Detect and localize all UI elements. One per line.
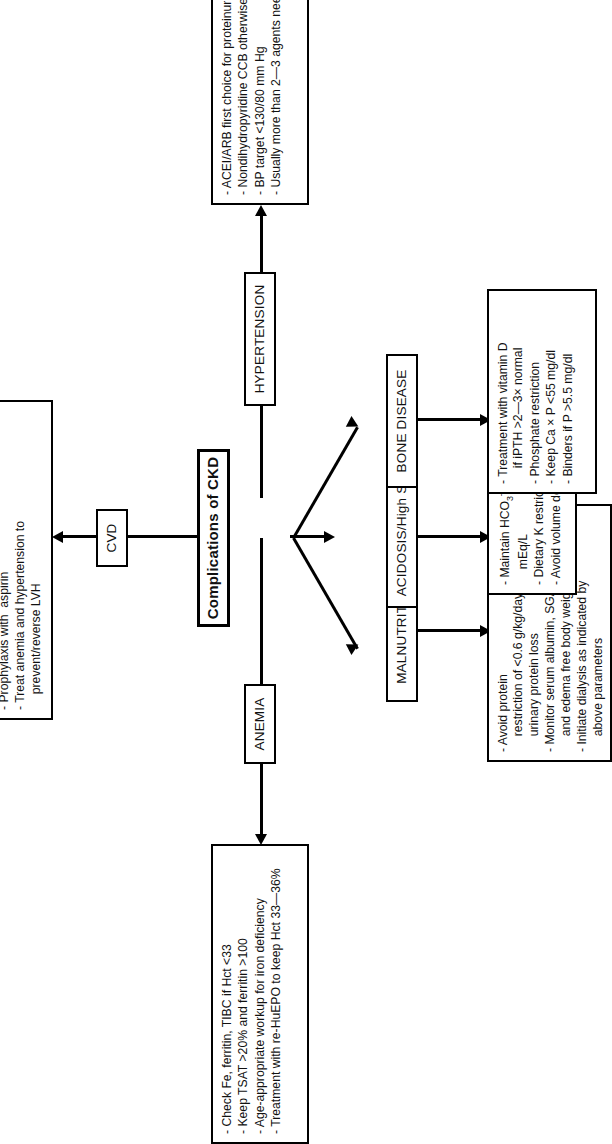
connector-central-to-bone-disease [292, 426, 359, 538]
connector-central-to-malnutrition [292, 537, 359, 649]
node-label-cvd: CVD [105, 523, 120, 552]
connector-hypertension-to-detail [260, 214, 263, 272]
list-item: - Treatment with re-HuEPO to keep Hct 33… [269, 854, 284, 1134]
connector-malnutrition-to-detail [418, 629, 482, 632]
list-item: - Age-appropriate workup for iron defici… [253, 854, 268, 1134]
node-cvd[interactable]: CVD [96, 509, 128, 567]
list-item: - Treatment with vitamin D if iPTH >2—3×… [496, 299, 527, 484]
list-item: - BP target <130/80 mm Hg [253, 0, 268, 195]
connector-anemia-to-detail [260, 764, 263, 839]
node-anemia[interactable]: ANEMIA [244, 684, 276, 764]
acidosis-line2: mEq/L [516, 534, 530, 576]
arrowhead-bone-disease [346, 416, 361, 432]
arrowhead-cvd-detail [52, 531, 63, 543]
detail-list-hypertension: - ACEI/ARB first choice for proteinuric … [220, 0, 285, 195]
node-bone-disease[interactable]: BONE DISEASE [386, 354, 418, 488]
node-label-anemia: ANEMIA [253, 698, 268, 751]
list-item: - Binders if P >5.5 mg/dl [561, 299, 576, 484]
list-item: - Initiate dialysis as indicated by abov… [575, 514, 606, 752]
node-label-central: Complications of CKD [205, 457, 222, 619]
detail-box-bone-disease: - Treatment with vitamin D if iPTH >2—3×… [487, 289, 597, 494]
list-item: - Check Fe, ferritin, TIBC if Hct <33 [220, 854, 235, 1134]
list-item: - Phosphate restriction [528, 299, 543, 484]
detail-list-anemia: - Check Fe, ferritin, TIBC if Hct <33 - … [220, 854, 285, 1134]
connector-central-to-cvd [128, 535, 198, 538]
connector-cvd-to-cvd-detail [60, 535, 96, 538]
node-label-acidosis: ACIDOSIS/High S [395, 485, 410, 597]
list-item: - Keep Ca × P <55 mg/dl [544, 299, 559, 484]
detail-box-hypertension: - ACEI/ARB first choice for proteinuric … [211, 0, 309, 205]
detail-list-bone-disease: - Treatment with vitamin D if iPTH >2—3×… [496, 299, 576, 484]
list-item: - Prophylaxis with aspirin [0, 410, 12, 710]
arrowhead-hypertension-detail [255, 205, 267, 216]
node-complications-of-ckd[interactable]: Complications of CKD [197, 449, 230, 627]
arrowhead-malnutrition [346, 639, 361, 655]
list-item: - Treat anemia and hypertension to preve… [13, 410, 44, 710]
detail-list-cvd: - Follow recommendations for CKD - Smoki… [0, 410, 44, 710]
list-item: - Keep TSAT >20% and ferritin >100 [236, 854, 251, 1134]
connector-acidosis-to-detail [418, 535, 482, 538]
node-hypertension[interactable]: HYPERTENSION [244, 272, 276, 406]
arrowhead-acidosis [324, 531, 335, 543]
node-label-bone-disease: BONE DISEASE [395, 370, 410, 473]
list-item: - Usually more than 2—3 agents needed [269, 0, 284, 195]
connector-bone-disease-to-detail [418, 418, 482, 421]
list-item: - Nondihydropyridine CCB otherwise [236, 0, 251, 195]
detail-box-cvd: - Follow recommendations for CKD - Smoki… [0, 400, 53, 720]
detail-box-anemia: - Check Fe, ferritin, TIBC if Hct <33 - … [211, 844, 309, 1144]
list-item: - ACEI/ARB first choice for proteinuric … [220, 0, 235, 195]
acidosis-line1-subscript: 3 [505, 496, 515, 501]
node-label-hypertension: HYPERTENSION [253, 285, 268, 394]
acidosis-line1-prefix: - Maintain HCO [498, 501, 512, 585]
